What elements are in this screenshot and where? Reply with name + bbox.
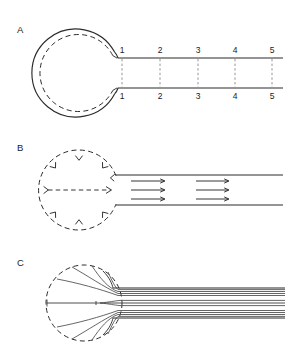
- panel-a-chamber-inner: [40, 34, 113, 111]
- panel-c: C: [17, 257, 285, 341]
- station-label-bottom-2: 2: [158, 91, 163, 101]
- panel-b-label: B: [17, 142, 23, 153]
- panel-a: A 1 2 3 4 5: [17, 24, 283, 117]
- station-label-top-4: 4: [233, 45, 238, 55]
- station-label-bottom-1: 1: [120, 91, 125, 101]
- streamline-upper-1: [57, 279, 285, 296]
- radial-arrowhead-s: [75, 220, 82, 225]
- station-label-bottom-3: 3: [196, 91, 201, 101]
- radial-arrowhead-w: [44, 186, 49, 193]
- station-label-top-3: 3: [196, 45, 201, 55]
- radial-arrowhead-ne: [103, 162, 109, 168]
- streamline-upper-4: [108, 272, 285, 290]
- radial-arrowhead-nw: [50, 162, 56, 168]
- streamline-lower-4: [108, 316, 285, 334]
- panel-a-junction-upper-inner: [113, 56, 117, 59]
- streamline-lower-1: [57, 311, 285, 328]
- radial-arrowhead-sw: [50, 212, 56, 218]
- radial-arrowhead-e: [110, 174, 114, 181]
- panel-a-junction-lower-inner: [113, 88, 117, 91]
- panel-a-label: A: [17, 24, 24, 35]
- station-label-bottom-5: 5: [270, 91, 275, 101]
- radial-arrowhead-n: [75, 156, 82, 161]
- station-label-top-5: 5: [270, 45, 275, 55]
- station-label-top-2: 2: [158, 45, 163, 55]
- panel-b: B: [17, 142, 283, 230]
- panel-b-flow-group-2: [196, 179, 229, 201]
- panel-b-flow-group-1: [131, 179, 165, 201]
- station-label-bottom-4: 4: [233, 91, 238, 101]
- panel-c-label: C: [17, 257, 24, 268]
- panel-b-center-arrowhead: [106, 187, 112, 194]
- figure-canvas: A 1 2 3 4 5: [0, 0, 288, 363]
- figure-root: A 1 2 3 4 5: [0, 0, 288, 363]
- station-label-top-1: 1: [120, 45, 125, 55]
